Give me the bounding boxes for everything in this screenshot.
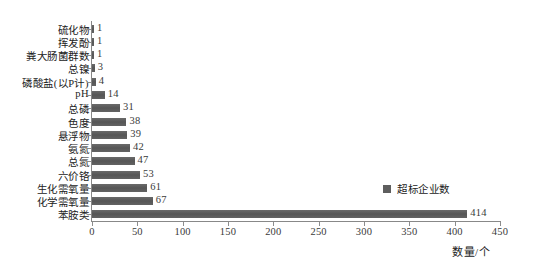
bar-value-总氮: 47 <box>138 154 149 165</box>
x-tick-label: 400 <box>435 226 475 237</box>
bar-pH <box>92 91 105 99</box>
bar-value-硫化物: 1 <box>97 22 102 33</box>
y-tick <box>87 201 91 202</box>
category-label-pH: pH <box>75 88 89 99</box>
x-axis-title: 数量/个 <box>452 243 490 259</box>
bar-总氮 <box>92 157 135 165</box>
y-tick <box>87 148 91 149</box>
bar-chart: 硫化物挥发酚粪大肠菌群数总镍磷酸盐(以P计)pH总磷色度悬浮物氨氮总氮六价铬生化… <box>0 0 542 267</box>
bar-六价铬 <box>92 171 140 179</box>
legend-swatch-icon <box>383 185 391 193</box>
bar-value-挥发酚: 1 <box>97 35 102 46</box>
y-tick <box>87 42 91 43</box>
x-tick-label: 250 <box>299 226 339 237</box>
y-tick <box>87 82 91 83</box>
bar-生化需氧量 <box>92 184 147 192</box>
y-tick <box>87 175 91 176</box>
bar-value-生化需氧量: 61 <box>150 181 161 192</box>
bar-总镍 <box>92 64 95 72</box>
bar-总磷 <box>92 104 120 112</box>
bar-悬浮物 <box>92 131 127 139</box>
y-tick <box>87 214 91 215</box>
y-tick <box>87 95 91 96</box>
category-label-苯胺类: 苯胺类 <box>58 207 90 222</box>
x-axis-line <box>91 221 501 222</box>
bar-苯胺类 <box>92 210 467 218</box>
y-tick <box>87 108 91 109</box>
bar-value-氨氮: 42 <box>133 141 144 152</box>
bar-硫化物 <box>92 25 94 33</box>
x-tick-label: 300 <box>344 226 384 237</box>
bar-value-总磷: 31 <box>123 101 134 112</box>
y-tick <box>87 135 91 136</box>
bar-value-化学需氧量: 67 <box>156 194 167 205</box>
bar-value-pH: 14 <box>108 88 119 99</box>
bar-挥发酚 <box>92 38 94 46</box>
bar-value-悬浮物: 39 <box>130 128 141 139</box>
bar-色度 <box>92 118 126 126</box>
y-tick <box>87 161 91 162</box>
bar-value-磷酸盐(以P计): 4 <box>99 75 104 86</box>
y-tick <box>87 68 91 69</box>
bar-value-苯胺类: 414 <box>470 207 486 218</box>
bar-粪大肠菌群数 <box>92 51 94 59</box>
x-tick-label: 200 <box>253 226 293 237</box>
x-tick-label: 100 <box>163 226 203 237</box>
bar-氨氮 <box>92 144 130 152</box>
x-tick-label: 450 <box>480 226 520 237</box>
legend-label: 超标企业数 <box>397 181 450 196</box>
bar-value-粪大肠菌群数: 1 <box>97 48 102 59</box>
y-tick <box>87 188 91 189</box>
x-tick-label: 50 <box>117 226 157 237</box>
y-tick <box>87 122 91 123</box>
bar-value-总镍: 3 <box>98 61 103 72</box>
y-tick <box>87 29 91 30</box>
bar-value-六价铬: 53 <box>143 168 154 179</box>
x-tick-label: 0 <box>72 226 112 237</box>
bar-磷酸盐(以P计) <box>92 78 96 86</box>
x-tick-label: 350 <box>389 226 429 237</box>
chart-legend: 超标企业数 <box>383 181 450 196</box>
bar-value-色度: 38 <box>129 115 140 126</box>
x-tick-label: 150 <box>208 226 248 237</box>
bar-化学需氧量 <box>92 197 153 205</box>
y-tick <box>87 55 91 56</box>
